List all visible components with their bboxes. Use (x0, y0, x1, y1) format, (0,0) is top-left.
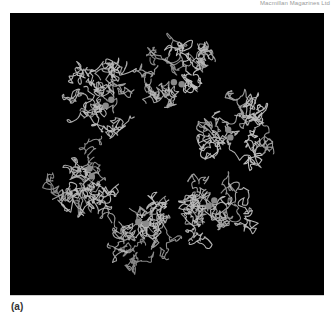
hexamer-ribbon-diagram (10, 13, 324, 295)
subunit-6 (62, 58, 136, 139)
panel-label: (a) (11, 301, 23, 312)
subunit-4 (100, 192, 182, 274)
metal-ion (227, 134, 233, 140)
subunit-1 (136, 33, 215, 107)
protein-structure-image (10, 13, 324, 296)
figure-credit: Macmillan Magazines Ltd (260, 0, 330, 7)
metal-ion (225, 127, 231, 133)
metal-ion (143, 221, 149, 227)
metal-ion (86, 165, 92, 171)
metal-ion (211, 197, 217, 203)
metal-ion (171, 79, 177, 85)
metal-ion (108, 97, 114, 103)
metal-ion (103, 102, 109, 108)
metal-ion (135, 219, 141, 225)
metal-ion (206, 203, 212, 209)
subunit-2 (197, 89, 274, 170)
metal-ion (179, 81, 185, 87)
metal-ion (89, 173, 95, 179)
subunit-3 (179, 172, 259, 249)
subunit-5 (43, 136, 119, 217)
